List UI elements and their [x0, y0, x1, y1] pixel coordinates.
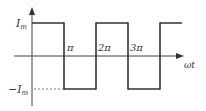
- y-axis-arrow-icon: [29, 7, 35, 15]
- tick-label-pi: π: [66, 42, 74, 53]
- tick-label-2pi: 2π: [97, 42, 111, 53]
- label-neg-im: −Im: [8, 83, 29, 97]
- x-axis-arrow-icon: [176, 53, 184, 59]
- square-wave-diagram: Im −Im π 2π 3π ωt: [0, 0, 206, 111]
- x-axis-label: ωt: [184, 60, 195, 70]
- label-im: Im: [15, 17, 27, 31]
- tick-label-3pi: 3π: [130, 42, 143, 53]
